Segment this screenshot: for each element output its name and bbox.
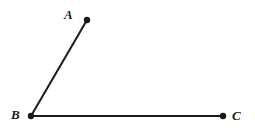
- point-c-dot: [220, 113, 226, 119]
- point-a-label: A: [64, 8, 73, 21]
- point-b-label: B: [11, 108, 20, 121]
- point-a-dot: [84, 17, 90, 23]
- angle-diagram-canvas: A B C: [0, 0, 255, 132]
- segment-ba: [31, 20, 87, 116]
- point-c-label: C: [232, 109, 241, 122]
- angle-vector-graphic: [0, 0, 255, 132]
- point-b-dot: [28, 113, 34, 119]
